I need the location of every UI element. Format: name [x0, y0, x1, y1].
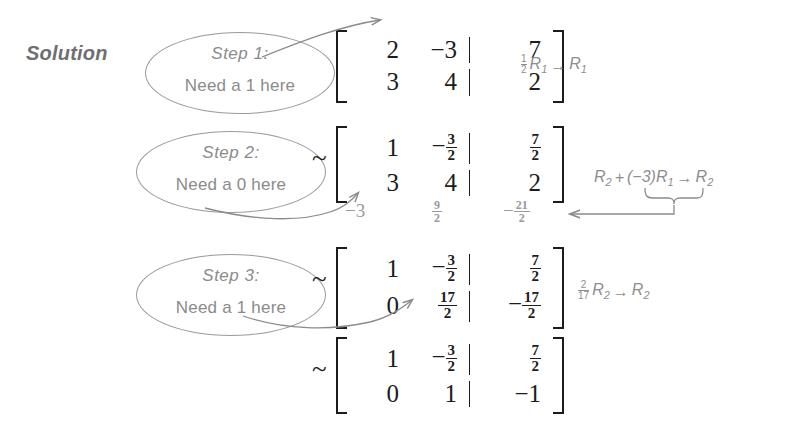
op-2-plus: +: [615, 169, 624, 187]
matrix-1-r1c2: −3: [405, 34, 463, 66]
row-operation-1: 1 2 R1 → R1: [521, 55, 587, 76]
matrix-4-r2c2: 1: [405, 378, 463, 410]
matrix-2-r2c3: 2: [475, 167, 547, 199]
matrix-3-r2c1: 0: [353, 290, 405, 322]
row-operation-2: R2 + (−3)R1 → R2: [594, 168, 713, 188]
matrix-2-r1c2: − 3 2: [405, 130, 463, 167]
augment-divider-2b: [469, 170, 470, 196]
bracket-right-2: [553, 126, 564, 203]
matrix-2-r2c1: 3: [353, 167, 405, 199]
working-row-value-1: −3: [345, 200, 365, 222]
matrix-2: 1 − 3 2 7 2 3 4 2: [336, 126, 564, 203]
callout-need-label-1: Need a 1 here: [145, 76, 335, 96]
matrix-4: 1 − 3 2 7 2 0 1 −1: [336, 337, 564, 414]
augment-divider-1: [469, 37, 470, 63]
op-3-target: R2: [592, 281, 610, 301]
op-2-factor: (−3)R1: [627, 168, 674, 188]
equivalence-tilde-3: ~: [312, 266, 327, 293]
op-1-scalar: 1 2: [521, 54, 527, 75]
matrix-4-r1c3: 7 2: [475, 341, 547, 378]
callout-step-label-1: Step 1:: [145, 44, 335, 64]
matrix-3-r2c3: − 17 2: [475, 288, 547, 325]
callout-need-label-3: Need a 1 here: [136, 298, 326, 318]
matrix-3-r2c2: 17 2: [405, 288, 463, 325]
page-title: Solution: [26, 42, 108, 65]
op-1-arrow-icon: →: [550, 57, 566, 75]
op-2-result: R2: [696, 168, 714, 188]
callout-step-1: Step 1: Need a 1 here: [145, 32, 335, 114]
bracket-left-1: [336, 30, 347, 103]
bracket-left-2: [336, 126, 347, 203]
solution-worksheet: Solution Step 1: Need a 1 here Step 2: N…: [0, 0, 803, 428]
callout-need-label-2: Need a 0 here: [136, 175, 326, 195]
equivalence-tilde-2: ~: [312, 145, 327, 172]
matrix-2-r1c3: 7 2: [475, 130, 547, 167]
matrix-1-r2c1: 3: [353, 66, 405, 98]
op-2-lead: R2: [594, 168, 612, 188]
matrix-3-r1c3: 7 2: [475, 251, 547, 288]
op-3-result: R2: [632, 281, 650, 301]
arrow-op-2-to-working-row: [570, 205, 674, 214]
augment-divider-1b: [469, 69, 470, 95]
bracket-right-4: [553, 337, 564, 414]
op-2-arrow-icon: →: [677, 169, 693, 187]
bracket-left-3: [336, 247, 347, 329]
augment-divider-3: [469, 254, 470, 285]
augment-divider-2: [469, 133, 470, 164]
matrix-4-r1c1: 1: [353, 343, 405, 375]
matrix-4-r2c1: 0: [353, 378, 405, 410]
matrix-3-r1c2: − 3 2: [405, 251, 463, 288]
op-1-result: R1: [569, 55, 587, 75]
op-3-arrow-icon: →: [613, 283, 629, 301]
equivalence-tilde-4: ~: [312, 356, 327, 383]
matrix-4-r2c3: −1: [475, 378, 547, 410]
matrix-1-r1c1: 2: [353, 34, 405, 66]
augment-divider-3b: [469, 291, 470, 322]
matrix-2-r1c1: 1: [353, 132, 405, 164]
augment-divider-4b: [469, 381, 470, 407]
augment-divider-4: [469, 344, 470, 375]
bracket-right-3: [553, 247, 564, 329]
callout-step-label-3: Step 3:: [136, 266, 326, 286]
working-row-value-2: 9 2: [432, 200, 442, 225]
callout-step-label-2: Step 2:: [136, 143, 326, 163]
matrix-2-r2c2: 4: [405, 167, 463, 199]
matrix-3-r1c1: 1: [353, 253, 405, 285]
matrix-1-r2c2: 4: [405, 66, 463, 98]
callout-step-3: Step 3: Need a 1 here: [136, 254, 326, 336]
bracket-left-4: [336, 337, 347, 414]
matrix-3: 1 − 3 2 7 2 0 17: [336, 247, 564, 329]
callout-step-2: Step 2: Need a 0 here: [136, 131, 326, 213]
row-operation-3: 2 17 R2 → R2: [578, 281, 650, 302]
underbrace-op-2: [645, 188, 703, 204]
working-row-value-3: − 21 2: [503, 200, 530, 225]
op-1-target: R1: [530, 55, 548, 75]
matrix-4-r1c2: − 3 2: [405, 341, 463, 378]
op-3-scalar: 2 17: [578, 280, 589, 301]
